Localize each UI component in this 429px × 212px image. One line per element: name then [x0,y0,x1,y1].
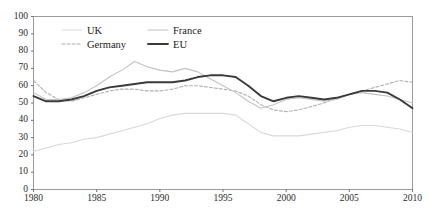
x-axis-label: 1990 [140,194,180,204]
y-axis-label: 90 [2,29,28,39]
x-axis-label: 2010 [393,194,429,204]
legend-item-uk: UK [62,25,103,36]
y-axis-label: 10 [2,167,28,177]
x-axis-label: 1995 [203,194,243,204]
legend-item-eu: EU [148,39,187,50]
x-axis-label: 2005 [329,194,369,204]
y-axis-label: 30 [2,133,28,143]
y-axis-label: 50 [2,98,28,108]
legend-label-eu: EU [173,39,187,50]
legend-label-germany: Germany [87,39,127,50]
y-axis-label: 100 [2,12,28,22]
y-axis-label: 40 [2,115,28,125]
series-line-uk [34,113,413,151]
y-axis-label: 60 [2,81,28,91]
y-axis-label: 70 [2,63,28,73]
series-line-france [34,61,413,108]
line-chart: UKFranceGermanyEU 0102030405060708090100… [0,0,429,212]
series-line-eu [34,75,413,108]
legend-item-france: France [148,25,202,36]
x-axis-label: 1980 [14,194,54,204]
legend-label-france: France [173,25,202,36]
chart-canvas: UKFranceGermanyEU [0,0,429,212]
x-axis-label: 1985 [77,194,117,204]
y-axis-label: 20 [2,150,28,160]
x-axis-label: 2000 [266,194,306,204]
y-axis-label: 80 [2,46,28,56]
legend-item-germany: Germany [62,39,127,50]
legend-label-uk: UK [87,25,103,36]
